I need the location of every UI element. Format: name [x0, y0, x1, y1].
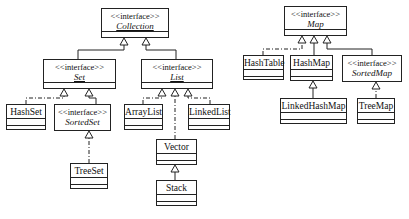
- interface-name: Map: [285, 19, 346, 29]
- arrowhead-icon: [184, 89, 192, 96]
- interface-sorted-map: <<interface>> SortedMap: [342, 55, 402, 82]
- arrowhead-icon: [158, 89, 166, 96]
- class-name: HashTable: [244, 58, 283, 69]
- class-tree-set: TreeSet: [70, 163, 108, 189]
- interface-collection: <<interface>> Collection: [101, 8, 169, 38]
- arrowhead-icon: [309, 81, 317, 88]
- class-name: Stack: [157, 183, 196, 194]
- interface-sorted-set: <<interface>> SortedSet: [54, 104, 111, 131]
- stereotype-label: <<interface>>: [142, 62, 212, 72]
- attributes-compartment: [189, 118, 229, 125]
- arrowhead-icon: [171, 89, 179, 96]
- class-name: LinkedList: [189, 107, 229, 118]
- attributes-compartment: [102, 31, 168, 37]
- attributes-compartment: [142, 82, 212, 88]
- class-hash-set: HashSet: [6, 104, 46, 130]
- arrowhead-icon: [298, 36, 306, 43]
- arrowhead-icon: [85, 131, 93, 138]
- attributes-compartment: [71, 177, 107, 184]
- class-linked-hash-map: LinkedHashMap: [280, 98, 347, 124]
- class-name: HashMap: [291, 58, 332, 69]
- interface-name: Collection: [102, 21, 168, 31]
- methods-compartment: [291, 76, 332, 80]
- interface-name: List: [142, 72, 212, 82]
- methods-compartment: [157, 201, 196, 205]
- methods-compartment: [7, 125, 45, 129]
- arrowhead-icon: [85, 89, 93, 96]
- arrowhead-icon: [60, 89, 68, 96]
- attributes-compartment: [157, 153, 196, 160]
- class-linked-list: LinkedList: [188, 104, 230, 130]
- class-name: TreeSet: [71, 166, 107, 177]
- attributes-compartment: [125, 118, 162, 125]
- attributes-compartment: [285, 29, 346, 35]
- methods-compartment: [244, 76, 283, 79]
- arrowhead-icon: [120, 38, 128, 45]
- class-name: LinkedHashMap: [281, 101, 346, 112]
- arrowhead-icon: [323, 36, 331, 43]
- class-array-list: ArrayList: [124, 104, 163, 130]
- attributes-compartment: [358, 112, 394, 119]
- methods-compartment: [189, 125, 229, 129]
- interface-list: <<interface>> List: [141, 59, 213, 89]
- stereotype-label: <<interface>>: [55, 107, 110, 117]
- class-stack: Stack: [156, 180, 197, 206]
- attributes-compartment: [244, 69, 283, 76]
- attributes-compartment: [7, 118, 45, 125]
- attributes-compartment: [157, 194, 196, 201]
- class-name: HashSet: [7, 107, 45, 118]
- attributes-compartment: [44, 82, 115, 88]
- interface-set: <<interface>> Set: [43, 59, 116, 89]
- arrowhead-icon: [171, 165, 179, 172]
- class-vector: Vector: [156, 139, 197, 165]
- class-hash-map: HashMap: [290, 55, 333, 81]
- arrowhead-icon: [142, 38, 150, 45]
- interface-name: Set: [44, 72, 115, 82]
- methods-compartment: [281, 119, 346, 123]
- attributes-compartment: [291, 69, 332, 76]
- class-hash-table: HashTable: [243, 55, 284, 80]
- stereotype-label: <<interface>>: [44, 62, 115, 72]
- methods-compartment: [125, 125, 162, 129]
- methods-compartment: [358, 119, 394, 123]
- methods-compartment: [157, 160, 196, 164]
- class-tree-map: TreeMap: [357, 98, 395, 124]
- methods-compartment: [71, 184, 107, 188]
- stereotype-label: <<interface>>: [285, 9, 346, 19]
- interface-name: SortedMap: [343, 68, 401, 78]
- class-name: Vector: [157, 142, 196, 153]
- interface-map: <<interface>> Map: [284, 6, 347, 36]
- class-name: TreeMap: [358, 101, 394, 112]
- arrowhead-icon: [310, 36, 318, 43]
- class-name: ArrayList: [125, 107, 162, 118]
- stereotype-label: <<interface>>: [102, 11, 168, 21]
- arrowhead-icon: [372, 82, 380, 89]
- interface-name: SortedSet: [55, 117, 110, 127]
- attributes-compartment: [281, 112, 346, 119]
- stereotype-label: <<interface>>: [343, 58, 401, 68]
